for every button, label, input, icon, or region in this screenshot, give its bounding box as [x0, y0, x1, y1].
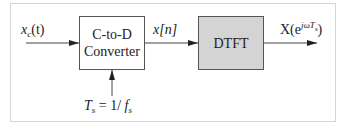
input-signal-label: xc(t)	[21, 22, 44, 39]
output-signal-label: X(ejωTs)	[280, 20, 322, 38]
xn-signal-label: x[n]	[153, 22, 177, 38]
signal-arrows	[0, 0, 349, 125]
dtft-block: DTFT	[198, 16, 264, 70]
dtft-label: DTFT	[214, 35, 249, 52]
c-to-d-label-line1: C-to-D	[92, 26, 132, 43]
sampling-period-label: Ts = 1/ fs	[84, 98, 132, 115]
c-to-d-label-line2: Converter	[84, 43, 140, 60]
c-to-d-converter-block: C-to-D Converter	[79, 16, 145, 70]
